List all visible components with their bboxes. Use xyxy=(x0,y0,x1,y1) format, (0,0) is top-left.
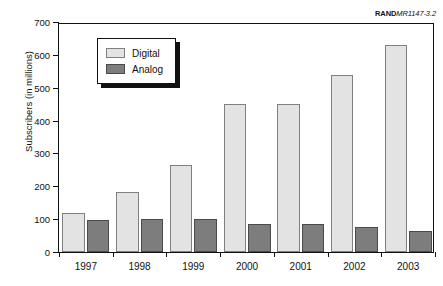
x-axis-tick-mark xyxy=(220,252,221,257)
bar-analog-1997 xyxy=(87,220,110,252)
x-axis-tick-mark xyxy=(274,252,275,257)
bar-digital-1999 xyxy=(170,165,193,252)
plot-area: 0100200300400500600700 19971998199920002… xyxy=(58,23,434,253)
bar-analog-1999 xyxy=(194,219,217,252)
legend-swatch-digital xyxy=(106,48,125,58)
chart-figure: RANDMR1147-3.2 Subscribers (in millions)… xyxy=(0,0,443,286)
chart-legend: DigitalAnalog xyxy=(97,38,176,84)
y-axis-tick-mark xyxy=(53,88,59,89)
bar-analog-1998 xyxy=(141,219,164,252)
bar-digital-1998 xyxy=(116,192,139,252)
x-axis-tick-label: 2001 xyxy=(290,261,312,272)
legend-item-digital: Digital xyxy=(106,45,163,61)
x-axis-tick-label: 2002 xyxy=(343,261,365,272)
y-axis-tick-label: 300 xyxy=(34,148,50,159)
y-axis-tick-mark xyxy=(53,186,59,187)
bar-digital-2003 xyxy=(385,45,408,252)
y-axis-tick-label: 500 xyxy=(34,82,50,93)
y-axis-tick-label: 700 xyxy=(34,17,50,28)
x-axis-tick-mark xyxy=(166,252,167,257)
x-axis-tick-mark xyxy=(435,252,436,257)
bar-digital-2002 xyxy=(331,75,354,252)
bar-digital-1997 xyxy=(62,213,85,252)
legend-item-analog: Analog xyxy=(106,61,163,77)
legend-swatch-analog xyxy=(106,64,125,74)
bar-analog-2000 xyxy=(248,224,271,252)
bar-analog-2002 xyxy=(355,227,378,252)
y-axis-title: Subscribers (in millions) xyxy=(23,22,34,182)
y-axis-tick-mark xyxy=(53,121,59,122)
y-axis-tick-label: 100 xyxy=(34,214,50,225)
x-axis-tick-label: 1998 xyxy=(128,261,150,272)
y-axis-tick-mark xyxy=(53,153,59,154)
source-identifier-document: MR1147-3.2 xyxy=(396,9,436,18)
y-axis-tick-mark xyxy=(53,22,59,23)
y-axis-tick-label: 0 xyxy=(45,247,50,258)
x-axis-tick-label: 1997 xyxy=(75,261,97,272)
bar-digital-2000 xyxy=(224,104,247,252)
y-axis-tick-label: 600 xyxy=(34,49,50,60)
x-axis-tick-mark xyxy=(381,252,382,257)
y-axis-tick-label: 200 xyxy=(34,181,50,192)
legend-label: Analog xyxy=(132,64,163,75)
source-identifier: RANDMR1147-3.2 xyxy=(375,9,436,18)
x-axis-tick-label: 1999 xyxy=(182,261,204,272)
x-axis-tick-mark xyxy=(328,252,329,257)
y-axis-tick-label: 400 xyxy=(34,115,50,126)
x-axis-tick-label: 2000 xyxy=(236,261,258,272)
y-axis-tick-mark xyxy=(53,219,59,220)
y-axis-tick-mark xyxy=(53,55,59,56)
x-axis-tick-mark xyxy=(113,252,114,257)
bar-digital-2001 xyxy=(277,104,300,252)
bar-analog-2001 xyxy=(302,224,325,252)
legend-label: Digital xyxy=(132,48,160,59)
x-axis-tick-label: 2003 xyxy=(397,261,419,272)
source-identifier-brand: RAND xyxy=(375,9,396,18)
bar-analog-2003 xyxy=(409,231,432,252)
x-axis-tick-mark xyxy=(59,252,60,257)
